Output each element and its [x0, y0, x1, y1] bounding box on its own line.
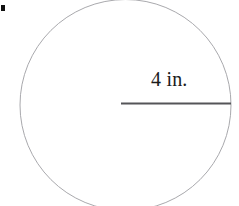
circle-diagram-canvas [0, 0, 239, 206]
geometry-figure: 4 in. [0, 0, 239, 206]
radius-measure-label: 4 in. [151, 69, 188, 89]
